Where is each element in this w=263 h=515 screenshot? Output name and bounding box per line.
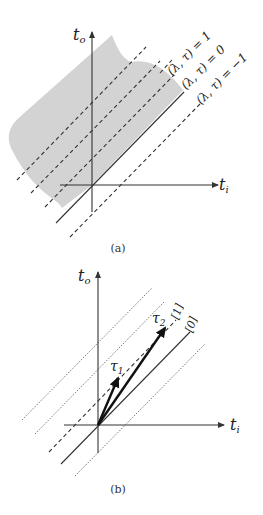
diagram-canvas: to ti (λ, τ) = 1 (λ, τ) = 0 (λ, τ) = −1 … <box>0 0 263 515</box>
panel-a: to ti (λ, τ) = 1 (λ, τ) = 0 (λ, τ) = −1 … <box>9 25 250 255</box>
solid-line-label-0 <box>61 332 190 464</box>
dotted-line-top-2 <box>35 302 164 434</box>
caption-a: (a) <box>110 242 125 255</box>
y-axis-label: to <box>78 266 90 286</box>
line-label-1: [1] <box>169 301 187 321</box>
x-axis-label: ti <box>219 175 229 195</box>
vector-label-tau1: τ1 <box>110 358 123 376</box>
caption-b: (b) <box>110 483 126 496</box>
panel-b: to ti τ1 τ2 [1] [0] (b) <box>22 266 240 496</box>
y-axis-label: to <box>73 25 85 45</box>
vector-label-tau2: τ2 <box>152 310 166 328</box>
x-axis-label: ti <box>230 415 240 435</box>
vector-tau2 <box>98 328 165 425</box>
dotted-line-top-1 <box>22 288 152 420</box>
line-label-0: [0] <box>183 314 201 334</box>
